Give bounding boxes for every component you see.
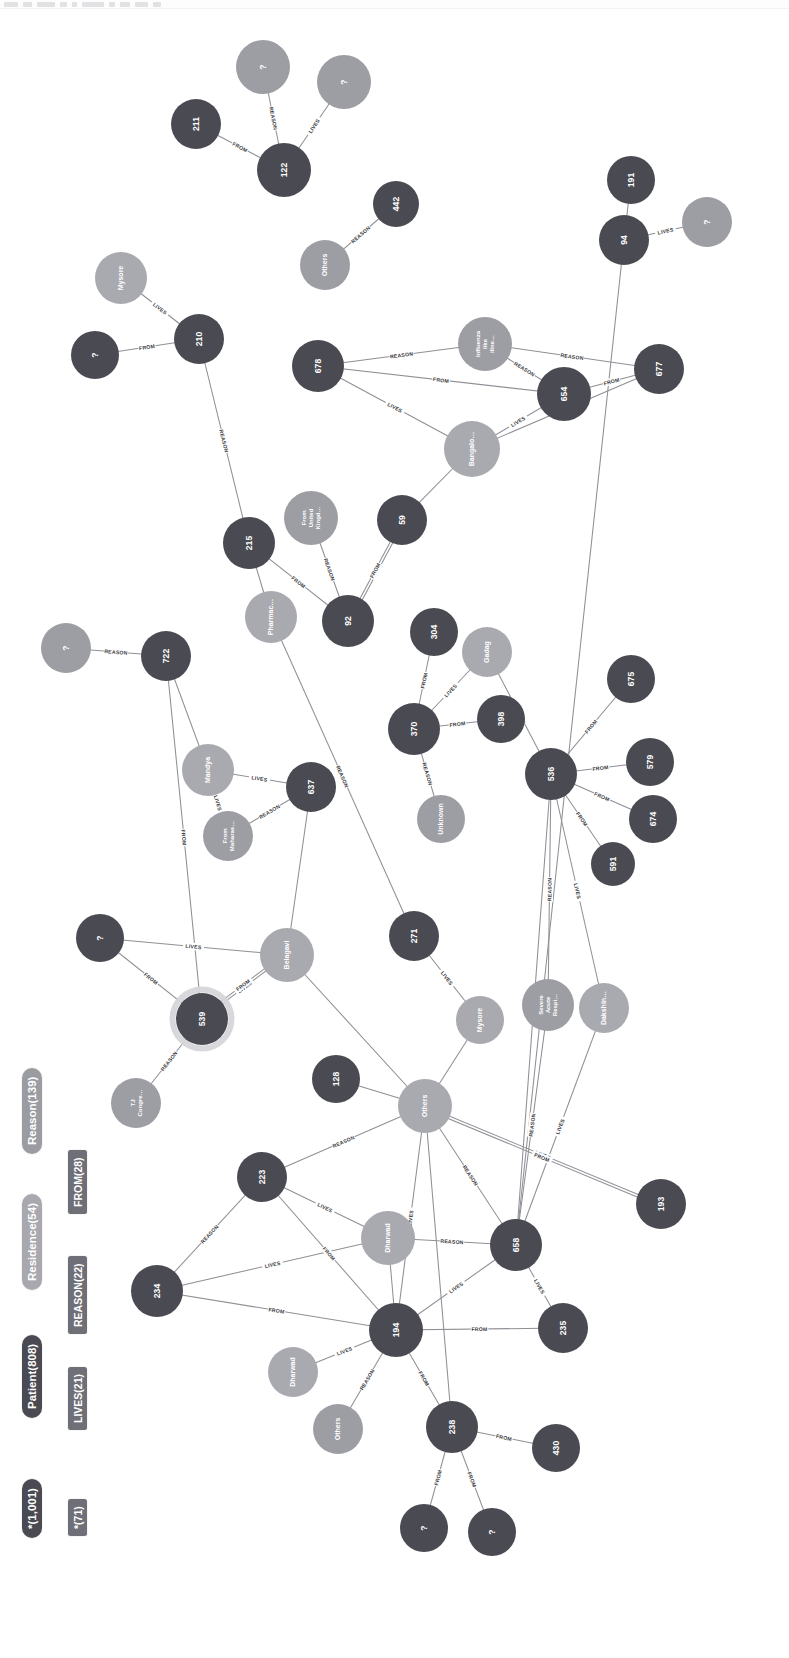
graph-node[interactable]: 211	[171, 99, 221, 149]
graph-node[interactable]: 235	[538, 1303, 588, 1353]
legend-relationship-chip[interactable]: *(71)	[68, 1499, 87, 1536]
graph-node[interactable]: ?	[76, 914, 124, 962]
graph-node[interactable]: TJCongre…	[111, 1078, 161, 1128]
svg-text:234: 234	[152, 1284, 162, 1299]
graph-node[interactable]: 675	[607, 655, 655, 703]
graph-node[interactable]: 722	[141, 631, 191, 681]
graph-node[interactable]: 677	[634, 344, 684, 394]
graph-node[interactable]: Bangalo…	[444, 421, 500, 477]
graph-node[interactable]: 678	[292, 340, 344, 392]
graph-node[interactable]: 674	[629, 795, 677, 843]
graph-node[interactable]: 59	[377, 495, 427, 545]
graph-node[interactable]: 591	[591, 842, 635, 886]
svg-text:Others: Others	[321, 254, 328, 277]
graph-node[interactable]: Others	[398, 1079, 452, 1133]
legend-node-chip[interactable]: Reason(139)	[22, 1068, 42, 1154]
legend-node-chip[interactable]: Residence(54)	[22, 1194, 42, 1290]
graph-node[interactable]: 442	[373, 181, 419, 227]
graph-node[interactable]: Pharmac…	[245, 591, 297, 643]
graph-node[interactable]: 370	[388, 703, 440, 755]
graph-node[interactable]: Mandya	[182, 744, 234, 796]
graph-node[interactable]: 654	[537, 367, 591, 421]
graph-node[interactable]: 430	[532, 1424, 580, 1472]
graph-node[interactable]: Gadag	[462, 627, 512, 677]
svg-text:?: ?	[61, 645, 71, 650]
graph-node[interactable]: ?	[71, 331, 119, 379]
edge-label: LIVES	[261, 1259, 283, 1271]
graph-node[interactable]: FromUnitedKingd…	[284, 491, 338, 545]
graph-node[interactable]: 210	[174, 314, 224, 364]
node-label: 539	[197, 1012, 207, 1027]
legend-relationship-chip[interactable]: LIVES(21)	[68, 1367, 87, 1430]
svg-text:FROM: FROM	[268, 1306, 285, 1315]
graph-node[interactable]: 191	[607, 156, 655, 204]
edge-label: LIVES	[531, 1276, 548, 1298]
legend-relationship-chip[interactable]: FROM(28)	[68, 1150, 87, 1214]
graph-node[interactable]: SevereAcuteRespi…	[522, 979, 574, 1031]
graph-node[interactable]: 223	[237, 1152, 287, 1202]
edge-label: FROM	[591, 763, 609, 772]
graph-node[interactable]: Influenzalikeillne…	[458, 317, 512, 371]
graph-node[interactable]: 128	[312, 1055, 360, 1103]
edge-label: FROM	[419, 671, 430, 690]
svg-text:FROM: FROM	[417, 1370, 430, 1387]
graph-node[interactable]: Dharwad	[361, 1211, 415, 1265]
graph-node[interactable]: ?	[317, 55, 371, 109]
graph-node[interactable]: Belagavi	[260, 928, 314, 982]
svg-text:REASON: REASON	[358, 1368, 375, 1391]
network-graph-svg[interactable]: FROMREASONLIVESREASONLIVESLIVESFROMREASO…	[0, 0, 789, 1658]
legend-relationship-chip[interactable]: REASON(22)	[68, 1256, 87, 1334]
edge-label: FROM	[267, 1306, 286, 1316]
svg-text:193: 193	[656, 1197, 666, 1212]
graph-node[interactable]: ?	[682, 197, 732, 247]
graph-node[interactable]: 579	[626, 738, 674, 786]
graph-node[interactable]: 398	[477, 695, 525, 743]
svg-text:Unknown: Unknown	[437, 803, 444, 835]
node-label: Pharmac…	[267, 599, 274, 636]
legend-node-chip[interactable]: Patient(808)	[22, 1335, 42, 1418]
graph-node[interactable]: ?	[41, 623, 91, 673]
node-label: 211	[191, 117, 201, 131]
graph-node[interactable]: Mysore	[95, 252, 147, 304]
svg-text:637: 637	[306, 780, 316, 795]
edge-label: REASON	[512, 359, 536, 378]
graph-node[interactable]: Dharwad	[268, 1347, 318, 1397]
graph-node[interactable]: 193	[636, 1179, 686, 1229]
svg-text:FROM: FROM	[471, 1326, 487, 1332]
node-label: Mysore	[476, 1008, 484, 1033]
node-label: ?	[702, 219, 712, 224]
graph-node[interactable]: 539	[173, 990, 232, 1049]
node-label: 398	[496, 712, 506, 727]
legend-node-chip[interactable]: *(1,001)	[22, 1479, 42, 1538]
graph-node[interactable]: ?	[236, 40, 290, 94]
graph-node[interactable]: 194	[369, 1303, 423, 1357]
graph-node[interactable]: 215	[223, 517, 275, 569]
node-label: Dharwad	[289, 1357, 296, 1387]
graph-node[interactable]: 238	[426, 1401, 478, 1453]
node-label: 654	[559, 387, 569, 402]
graph-node[interactable]: Dakshin…	[579, 983, 629, 1033]
graph-node[interactable]: ?	[400, 1504, 448, 1552]
graph-node[interactable]: FromMaharas…	[203, 811, 253, 861]
edge-label: FROM	[416, 1369, 431, 1388]
graph-node[interactable]: Mysore	[456, 996, 504, 1044]
graph-node[interactable]: 536	[525, 748, 577, 800]
graph-node[interactable]: 304	[410, 608, 458, 656]
svg-text:94: 94	[619, 235, 629, 245]
graph-node[interactable]: 94	[599, 215, 649, 265]
graph-node[interactable]: 271	[389, 911, 439, 961]
graph-node[interactable]: Others	[313, 1404, 363, 1454]
graph-node[interactable]: 122	[257, 143, 311, 197]
graph-node[interactable]: 92	[322, 595, 374, 647]
svg-text:Mysore: Mysore	[117, 266, 125, 291]
graph-node[interactable]: 234	[131, 1265, 183, 1317]
svg-text:FROM: FROM	[231, 141, 248, 154]
graph-node[interactable]: Unknown	[417, 795, 465, 843]
graph-node[interactable]: ?	[468, 1508, 516, 1556]
svg-text:Severe: Severe	[538, 994, 544, 1014]
graph-node[interactable]: 658	[490, 1219, 542, 1271]
graph-node[interactable]: Others	[300, 240, 350, 290]
graph-canvas[interactable]: FROMREASONLIVESREASONLIVESLIVESFROMREASO…	[0, 0, 789, 1658]
graph-node[interactable]: 637	[286, 762, 336, 812]
graph-edge[interactable]	[425, 1106, 452, 1427]
